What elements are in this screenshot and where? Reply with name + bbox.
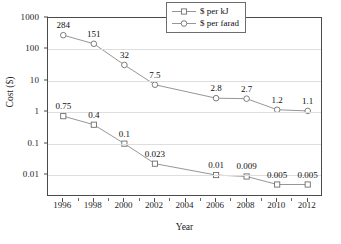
- x-tick-mark: [62, 198, 63, 202]
- y-tick-label: 100: [25, 43, 39, 53]
- y-axis-title: Cost ($): [5, 62, 15, 122]
- legend-label: $ per farad: [200, 18, 239, 28]
- plot-area: 0.750.40.10.0230.010.0090.0050.005284151…: [47, 17, 322, 196]
- x-tick-mark-minor: [291, 198, 292, 201]
- gridline: [48, 81, 321, 82]
- y-tick-label: 1000: [21, 12, 39, 22]
- x-tick-mark: [93, 198, 94, 202]
- legend-item: $ per farad: [171, 17, 239, 29]
- chart-legend: $ per kJ$ per farad: [166, 2, 246, 33]
- chart-figure: 10001001010.10.01 Cost ($) 0.750.40.10.0…: [0, 0, 341, 244]
- legend-circle-marker-icon: [171, 18, 197, 29]
- data-point-marker: [213, 95, 219, 101]
- legend-item: $ per kJ: [171, 5, 239, 17]
- x-tick-mark: [185, 198, 186, 202]
- y-tick-label: 1: [34, 106, 39, 116]
- gridline: [48, 112, 321, 113]
- x-axis-title: Year: [47, 222, 322, 232]
- gridline: [48, 144, 321, 145]
- x-tick-mark-minor: [200, 198, 201, 201]
- series-layer: [48, 18, 323, 197]
- x-tick-mark: [154, 198, 155, 202]
- data-point-marker: [61, 114, 66, 119]
- y-tick-label: 0.1: [27, 138, 39, 148]
- series-line: [63, 35, 307, 111]
- x-tick-mark: [276, 198, 277, 202]
- data-point-marker: [305, 182, 310, 187]
- legend-label: $ per kJ: [200, 6, 229, 16]
- x-tick-mark-minor: [169, 198, 170, 201]
- y-tick-label: 0.01: [23, 169, 39, 179]
- x-tick-mark: [246, 198, 247, 202]
- data-point-marker: [122, 62, 128, 68]
- gridline: [48, 175, 321, 176]
- x-tick-mark-minor: [139, 198, 140, 201]
- data-point-marker: [275, 182, 280, 187]
- data-point-marker: [244, 96, 250, 102]
- legend-square-marker-icon: [171, 6, 197, 17]
- x-axis-ticks: 199619982000200220042006200820102012: [47, 198, 322, 214]
- x-tick-mark: [215, 198, 216, 202]
- data-point-marker: [152, 82, 158, 88]
- x-tick-mark-minor: [78, 198, 79, 201]
- data-point-marker: [60, 32, 66, 38]
- x-tick-mark-minor: [230, 198, 231, 201]
- x-tick-mark: [123, 198, 124, 202]
- data-point-marker: [152, 161, 157, 166]
- y-tick-label: 10: [30, 75, 39, 85]
- data-point-marker: [91, 41, 97, 47]
- data-point-marker: [91, 122, 96, 127]
- x-tick-mark-minor: [108, 198, 109, 201]
- x-tick-mark: [307, 198, 308, 202]
- gridline: [48, 49, 321, 50]
- x-tick-mark-minor: [261, 198, 262, 201]
